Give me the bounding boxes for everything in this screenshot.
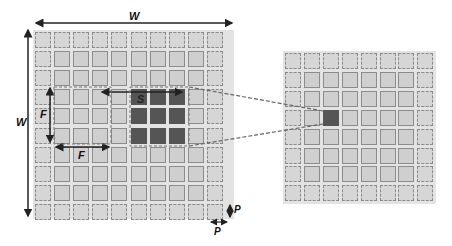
- stride-label: S: [137, 93, 144, 105]
- connector-bottom: [189, 124, 323, 146]
- padding-label-vertical: P: [234, 204, 241, 215]
- width-label-top: W: [129, 10, 139, 22]
- padding-label-horizontal: P: [214, 226, 221, 237]
- width-label-left: W: [16, 116, 26, 128]
- filter-label-horizontal: F: [78, 149, 85, 161]
- filter-window-1: [54, 87, 111, 144]
- connector-top: [189, 87, 323, 111]
- annotations-overlay: [0, 0, 452, 246]
- filter-label-vertical: F: [40, 108, 47, 120]
